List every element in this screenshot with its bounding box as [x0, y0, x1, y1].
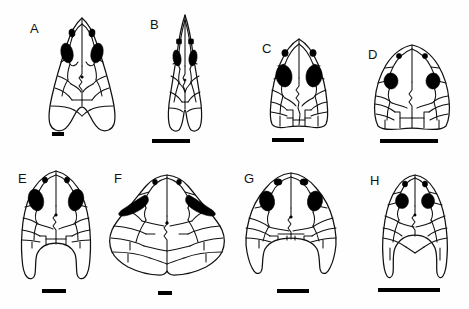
skull-diagram-a — [38, 14, 126, 134]
skull-panel-b — [156, 12, 214, 136]
panel-label-b: B — [150, 18, 159, 31]
scalebar-d — [380, 139, 438, 143]
panel-label-h: H — [370, 174, 379, 187]
scalebar-f — [158, 291, 172, 295]
skull-diagram-c — [267, 36, 331, 134]
panel-label-a: A — [30, 22, 39, 35]
scalebar-a — [52, 132, 64, 136]
scalebar-c — [272, 138, 304, 142]
figure-plate: A — [0, 0, 469, 309]
skull-panel-f — [108, 172, 226, 284]
skull-panel-c — [267, 36, 331, 134]
skull-diagram-e — [20, 168, 92, 284]
skull-diagram-h — [377, 172, 453, 284]
skull-panel-a — [38, 14, 126, 134]
panel-label-d: D — [368, 48, 377, 61]
skull-diagram-d — [372, 42, 452, 134]
skull-diagram-g — [243, 170, 339, 284]
panel-label-f: F — [114, 172, 122, 185]
panel-label-g: G — [244, 172, 254, 185]
scalebar-b — [152, 139, 190, 143]
skull-diagram-b — [156, 12, 214, 136]
scalebar-e — [42, 289, 66, 293]
panel-label-c: C — [262, 42, 271, 55]
scalebar-h — [378, 288, 440, 292]
panel-label-e: E — [18, 172, 27, 185]
skull-panel-d — [372, 42, 452, 134]
skull-panel-e — [20, 168, 92, 284]
skull-panel-g — [243, 170, 339, 284]
skull-panel-h — [377, 172, 453, 284]
scalebar-g — [277, 289, 309, 293]
skull-diagram-f — [108, 172, 226, 284]
